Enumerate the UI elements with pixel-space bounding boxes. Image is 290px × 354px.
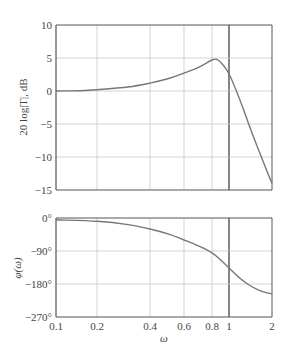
x-tick-label: 0.1: [49, 320, 63, 332]
phase-y-tick-label: −270°: [25, 311, 52, 323]
phase-y-tick-label: 0°: [42, 212, 52, 224]
magnitude-panel: 1050−5−10−15: [35, 19, 272, 196]
magnitude-y-tick-label: 10: [41, 19, 53, 31]
x-axis-label: ω: [160, 332, 168, 344]
magnitude-y-tick-label: −15: [35, 184, 53, 196]
x-tick-label: 0.4: [143, 320, 157, 332]
x-tick-label: 0.6: [177, 320, 191, 332]
x-tick-label: 0.2: [90, 320, 104, 332]
phase-y-tick-label: −180°: [25, 278, 52, 290]
magnitude-y-tick-label: −10: [35, 151, 53, 163]
phase-y-tick-label: −90°: [30, 245, 52, 257]
bode-plot: 1050−5−10−15 0°−90°−180°−270°0.10.20.40.…: [0, 0, 290, 354]
magnitude-y-tick-label: 5: [47, 52, 53, 64]
magnitude-y-tick-label: 0: [47, 85, 53, 97]
magnitude-y-axis-label: 20 log|T|, dB: [17, 78, 29, 135]
x-tick-label: 2: [269, 320, 275, 332]
x-tick-label: 1: [226, 320, 232, 332]
phase-panel: 0°−90°−180°−270°0.10.20.40.60.812: [25, 212, 275, 332]
x-tick-label: 0.8: [205, 320, 219, 332]
magnitude-curve: [56, 59, 272, 183]
phase-y-axis-label: φ(ω): [11, 257, 24, 279]
phase-curve: [56, 220, 272, 294]
magnitude-y-tick-label: −5: [40, 118, 52, 130]
